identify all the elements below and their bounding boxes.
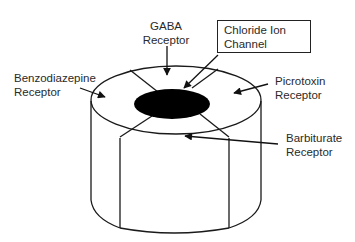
cylinder-bottom-arc — [120, 228, 229, 233]
barbiturate-label-line1: Barbiturate — [286, 131, 342, 145]
chloride-ion-channel-label: Chloride Ion Channel — [217, 20, 311, 53]
gaba-label-line1: GABA — [131, 19, 201, 33]
divider-top-left — [130, 70, 158, 92]
chloride-label-line2: Channel — [224, 37, 304, 51]
chloride-label-line1: Chloride Ion — [224, 23, 304, 37]
picrotoxin-receptor-label: Picrotoxin Receptor — [275, 74, 326, 102]
barbiturate-label-line2: Receptor — [286, 145, 342, 159]
picrotoxin-label-line2: Receptor — [275, 88, 326, 102]
chloride-channel-pore — [134, 89, 210, 119]
receptor-diagram: GABA Receptor Chloride Ion Channel Benzo… — [0, 0, 355, 242]
picrotoxin-arrow — [234, 84, 268, 93]
picrotoxin-label-line1: Picrotoxin — [275, 74, 326, 88]
barbiturate-receptor-label: Barbiturate Receptor — [286, 131, 342, 159]
benzodiazepine-receptor-label: Benzodiazepine Receptor — [14, 71, 96, 99]
divider-bottom-right — [200, 114, 229, 137]
gaba-label-line2: Receptor — [131, 33, 201, 47]
divider-bottom-left — [120, 116, 152, 137]
gaba-receptor-label: GABA Receptor — [131, 19, 201, 47]
divider-top-right — [192, 69, 218, 88]
chloride-arrow — [184, 55, 218, 88]
benzodiazepine-label-line2: Receptor — [14, 85, 96, 99]
barbiturate-arrow — [185, 136, 278, 144]
benzodiazepine-label-line1: Benzodiazepine — [14, 71, 96, 85]
cylinder-left-side — [91, 101, 120, 228]
